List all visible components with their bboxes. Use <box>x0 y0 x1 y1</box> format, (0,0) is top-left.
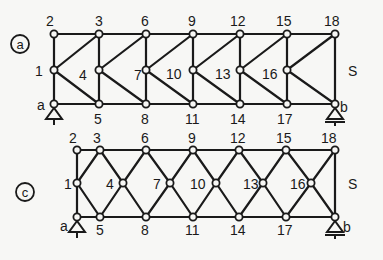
node-label: 4 <box>79 67 87 83</box>
node-label: 1 <box>35 63 43 79</box>
node-6 <box>142 146 149 153</box>
node-14 <box>236 100 243 107</box>
svg-text:a: a <box>16 37 24 52</box>
member-4-6 <box>99 34 146 70</box>
node-label: 13 <box>215 66 231 82</box>
node-b <box>331 213 338 220</box>
node-label: 8 <box>141 111 149 127</box>
member-10-12 <box>216 150 239 183</box>
node-label: 2 <box>46 13 54 29</box>
node-label: 3 <box>93 130 101 146</box>
node-8 <box>142 100 149 107</box>
node-label: 3 <box>95 13 103 29</box>
node-label: 7 <box>153 176 161 192</box>
member-13-15 <box>263 150 286 183</box>
member-1-3 <box>77 150 100 183</box>
node-label: 5 <box>96 222 104 238</box>
node-b <box>331 100 338 107</box>
node-13 <box>236 66 243 73</box>
node-a <box>73 213 80 220</box>
node-label: S <box>348 63 357 79</box>
node-label: 7 <box>134 67 142 83</box>
node-label: 2 <box>69 130 77 146</box>
node-label: 13 <box>243 176 259 192</box>
node-7 <box>166 179 173 186</box>
member-4-6 <box>123 150 146 183</box>
member-16-b <box>311 183 335 217</box>
node-label: 14 <box>230 222 246 238</box>
member-16-18 <box>311 150 335 183</box>
node-2 <box>50 30 57 37</box>
node-label: 18 <box>324 13 340 29</box>
node-label: 15 <box>276 13 292 29</box>
node-15 <box>282 146 289 153</box>
node-1 <box>50 66 57 73</box>
node-label: 6 <box>141 130 149 146</box>
member-7-9 <box>146 34 193 70</box>
node-label: 10 <box>190 176 206 192</box>
node-7 <box>142 66 149 73</box>
node-label: 9 <box>188 130 196 146</box>
node-18 <box>331 30 338 37</box>
node-label: 4 <box>106 176 114 192</box>
svg-text:c: c <box>22 185 29 200</box>
truss-diagrams: a2369121518147101316Sa58111417bc23691215… <box>0 0 383 260</box>
node-9 <box>189 146 196 153</box>
member-1-5 <box>54 70 99 104</box>
node-18 <box>331 146 338 153</box>
node-label: 15 <box>276 130 292 146</box>
truss-a: a2369121518147101316Sa58111417b <box>11 13 357 127</box>
node-4 <box>95 66 102 73</box>
node-17 <box>282 213 289 220</box>
member-1-5 <box>77 183 100 217</box>
node-label: a <box>37 97 45 113</box>
truss-c: c2369121518147101316Sa58111417b <box>16 130 357 239</box>
node-4 <box>119 179 126 186</box>
node-label: 5 <box>94 111 102 127</box>
diagram-tag-c: c <box>16 183 34 201</box>
member-4-8 <box>123 183 146 217</box>
member-16-18 <box>287 34 335 70</box>
node-16 <box>307 179 314 186</box>
node-12 <box>236 30 243 37</box>
member-13-17 <box>263 183 286 217</box>
pin-support-icon <box>69 221 85 238</box>
node-3 <box>95 30 102 37</box>
node-label: S <box>348 176 357 192</box>
pin-support-icon <box>46 108 62 125</box>
roller-support-icon <box>325 221 345 239</box>
node-label: 12 <box>230 13 246 29</box>
node-label: 10 <box>166 66 182 82</box>
node-label: 12 <box>230 130 246 146</box>
node-label: 16 <box>290 176 306 192</box>
node-10 <box>189 66 196 73</box>
node-label: b <box>340 99 348 115</box>
node-label: 1 <box>64 176 72 192</box>
node-label: 11 <box>185 111 200 127</box>
member-10-14 <box>216 183 239 217</box>
node-17 <box>283 100 290 107</box>
node-5 <box>95 100 102 107</box>
node-label: 14 <box>230 111 246 127</box>
node-11 <box>189 100 196 107</box>
node-9 <box>189 30 196 37</box>
node-label: 6 <box>141 13 149 29</box>
node-5 <box>96 213 103 220</box>
node-13 <box>259 179 266 186</box>
node-12 <box>235 146 242 153</box>
node-label: a <box>60 218 68 234</box>
node-15 <box>283 30 290 37</box>
node-3 <box>96 146 103 153</box>
node-label: 9 <box>188 13 196 29</box>
node-11 <box>189 213 196 220</box>
node-8 <box>142 213 149 220</box>
node-2 <box>73 146 80 153</box>
node-label: 17 <box>277 222 293 238</box>
node-1 <box>73 179 80 186</box>
node-label: 17 <box>277 111 293 127</box>
node-6 <box>142 30 149 37</box>
node-label: 8 <box>141 222 149 238</box>
member-10-12 <box>193 34 240 70</box>
member-16-b <box>287 70 335 104</box>
node-16 <box>283 66 290 73</box>
